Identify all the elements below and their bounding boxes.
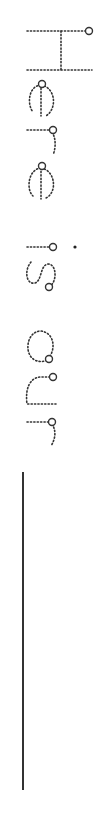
letter-u [27, 374, 57, 405]
start-circle-icon [39, 163, 46, 170]
letter-e-1 [29, 81, 53, 117]
start-circle-icon [50, 374, 57, 381]
letter-i [27, 244, 77, 251]
letter-s [27, 262, 55, 291]
dotted-letters [0, 0, 96, 814]
start-circle-icon [50, 127, 57, 134]
start-circle-icon [39, 81, 46, 88]
letter-r [27, 127, 57, 156]
handwriting-tracing-sheet: Here is our [0, 0, 96, 814]
start-circle-icon [86, 28, 93, 35]
letter-H [27, 28, 93, 71]
letter-o [28, 331, 53, 363]
start-circle-icon [49, 419, 56, 426]
start-circle-icon [46, 284, 53, 291]
letter-r-2 [27, 419, 56, 447]
letter-e-2 [29, 163, 53, 200]
writing-line [22, 472, 24, 790]
i-dot [73, 245, 76, 248]
start-circle-icon [50, 244, 57, 251]
start-circle-icon [46, 356, 53, 363]
